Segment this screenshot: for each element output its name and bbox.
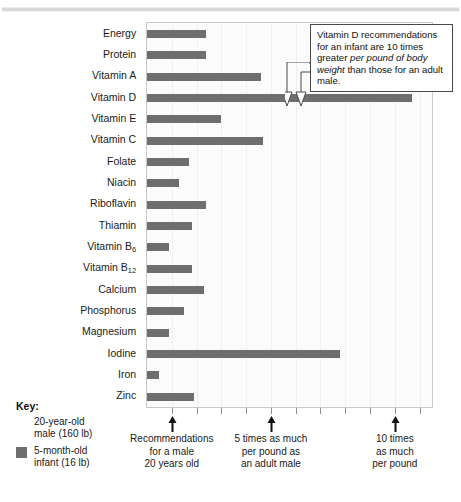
- y-label-niacin: Niacin: [0, 177, 142, 188]
- y-label-vitamin-b6: Vitamin B6: [0, 241, 142, 253]
- axis-caption-line: an adult male: [216, 458, 326, 471]
- y-label-phosphorus: Phosphorus: [0, 305, 142, 316]
- bar-row: [147, 279, 432, 301]
- legend-swatch: [16, 447, 27, 458]
- axis-arrow-10x: [391, 416, 400, 432]
- bar-vitamin-b12: [147, 265, 192, 273]
- legend-label: 20-year-oldmale (160 lb): [34, 416, 141, 440]
- tick-10: [395, 408, 396, 414]
- bar-calcium: [147, 286, 204, 294]
- y-label-magnesium: Magnesium: [0, 326, 142, 337]
- y-label-riboflavin: Riboflavin: [0, 198, 142, 209]
- tick-6: [296, 408, 297, 414]
- y-label-vitamin-c: Vitamin C: [0, 134, 142, 145]
- legend-key: Key: 20-year-oldmale (160 lb)5-month-old…: [16, 400, 141, 474]
- legend-label: 5-month-oldinfant (16 lb): [34, 445, 141, 469]
- y-axis-labels: Energy Protein Vitamin A Vitamin D Vitam…: [0, 23, 142, 407]
- bar-thiamin: [147, 222, 192, 230]
- y-label-vitamin-d: Vitamin D: [0, 92, 142, 103]
- tick-9: [370, 408, 371, 414]
- tick-11: [420, 408, 421, 414]
- axis-arrow-5x: [267, 416, 276, 432]
- bar-row: [147, 151, 432, 173]
- tick-1: [172, 408, 173, 414]
- bar-row: [147, 322, 432, 344]
- y-label-protein: Protein: [0, 49, 142, 60]
- bar-row: [147, 236, 432, 258]
- y-label-energy: Energy: [0, 28, 142, 39]
- tick-7: [320, 408, 321, 414]
- axis-caption-5x: 5 times as muchper pound asan adult male: [216, 433, 326, 471]
- bar-row: [147, 258, 432, 280]
- axis-caption-line: as much: [355, 446, 435, 459]
- tick-3: [221, 408, 222, 414]
- axis-caption-line: 10 times: [355, 433, 435, 446]
- bar-niacin: [147, 179, 179, 187]
- axis-caption-10x: 10 timesas muchper pound: [355, 433, 435, 471]
- bar-folate: [147, 158, 189, 166]
- y-label-iron: Iron: [0, 369, 142, 380]
- axis-caption-line: per pound as: [216, 446, 326, 459]
- tick-2: [197, 408, 198, 414]
- y-label-folate: Folate: [0, 156, 142, 167]
- legend-swatch-empty: [16, 418, 27, 429]
- bar-row: [147, 108, 432, 130]
- bar-row: [147, 343, 432, 365]
- top-rule: [2, 7, 459, 12]
- bar-vitamin-e: [147, 115, 221, 123]
- bar-iodine: [147, 350, 340, 358]
- nutrient-comparison-figure: Energy Protein Vitamin A Vitamin D Vitam…: [0, 0, 461, 502]
- bar-riboflavin: [147, 201, 206, 209]
- tick-8: [345, 408, 346, 414]
- axis-caption-line: per pound: [355, 458, 435, 471]
- axis-arrow-1x: [168, 416, 177, 432]
- y-label-thiamin: Thiamin: [0, 220, 142, 231]
- x-axis-ticks: [146, 408, 433, 415]
- bar-row: [147, 130, 432, 152]
- bar-protein: [147, 51, 206, 59]
- bar-row: [147, 300, 432, 322]
- bar-energy: [147, 30, 206, 38]
- bar-row: [147, 194, 432, 216]
- legend-item: 5-month-oldinfant (16 lb): [16, 445, 141, 469]
- y-label-vitamin-b12: Vitamin B12: [0, 262, 142, 274]
- y-label-vitamin-e: Vitamin E: [0, 113, 142, 124]
- bar-vitamin-c: [147, 137, 263, 145]
- bar-row: [147, 172, 432, 194]
- legend-item: 20-year-oldmale (160 lb): [16, 416, 141, 440]
- bar-magnesium: [147, 329, 169, 337]
- bar-vitamin-d: [147, 94, 412, 102]
- bar-vitamin-b6: [147, 243, 169, 251]
- y-label-calcium: Calcium: [0, 284, 142, 295]
- axis-caption-line: 5 times as much: [216, 433, 326, 446]
- x-axis-pointer-arrows: [146, 416, 433, 432]
- bar-phosphorus: [147, 307, 184, 315]
- bar-zinc: [147, 393, 194, 401]
- bar-row: [147, 386, 432, 408]
- y-label-vitamin-a: Vitamin A: [0, 70, 142, 81]
- legend-title: Key:: [16, 400, 141, 412]
- y-label-iodine: Iodine: [0, 348, 142, 359]
- bar-row: [147, 364, 432, 386]
- tick-4: [246, 408, 247, 414]
- bar-vitamin-a: [147, 73, 261, 81]
- callout-box: Vitamin D recommendations for an infant …: [310, 24, 453, 92]
- bar-iron: [147, 371, 159, 379]
- bar-row: [147, 215, 432, 237]
- tick-5: [271, 408, 272, 414]
- legend-items: 20-year-oldmale (160 lb)5-month-oldinfan…: [16, 416, 141, 469]
